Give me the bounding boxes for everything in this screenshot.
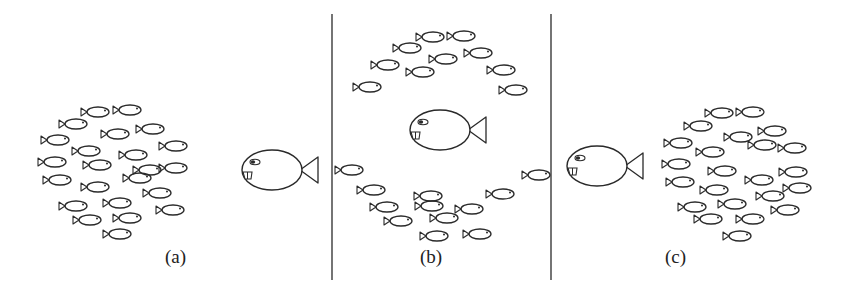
panel-label-c: (c) [665,246,686,268]
fish-school [662,107,811,241]
small-fish-icon [384,216,412,226]
small-fish-icon [463,229,491,239]
small-fish-icon [59,201,87,211]
small-fish-icon [156,205,184,215]
small-fish-icon [745,175,773,185]
small-fish-icon [159,163,187,173]
small-fish-icon [72,146,100,156]
small-fish-icon [113,213,141,223]
small-fish-icon [420,231,448,241]
small-fish-icon [41,135,69,145]
panel-label-a: (a) [165,246,186,268]
small-fish-icon [464,48,492,58]
small-fish-icon [393,43,421,53]
panel-label-b: (b) [420,246,442,268]
small-fish-icon [123,173,151,183]
predator-teeth [243,172,252,179]
small-fish-icon [81,107,109,117]
small-fish-icon [103,198,131,208]
small-fish-icon [696,147,724,157]
small-fish-icon [779,167,807,177]
small-fish-icon [136,124,164,134]
predator-fish-icon [242,150,318,190]
fish-school [38,105,187,239]
predator-fish-icon [410,110,486,150]
small-fish-icon [664,138,692,148]
small-fish-icon [723,231,751,241]
small-fish-icon [486,189,514,199]
small-fish-icon [694,214,722,224]
small-fish-icon [113,105,141,115]
small-fish-icon [718,199,746,209]
small-fish-icon [43,175,71,185]
small-fish-icon [447,31,475,41]
small-fish-icon [666,177,694,187]
small-fish-icon [353,82,381,92]
small-fish-icon [143,188,171,198]
small-fish-icon [414,191,442,201]
small-fish-icon [429,54,457,64]
small-fish-icon [73,215,101,225]
small-fish-icon [371,60,399,70]
small-fish-icon [684,121,712,131]
small-fish-icon [736,107,764,117]
small-fish-icon [756,191,784,201]
small-fish-icon [499,85,527,95]
small-fish-icon [416,32,444,42]
small-fish-icon [103,229,131,239]
panel-c [567,107,811,241]
small-fish-icon [662,159,690,169]
small-fish-icon [678,202,706,212]
small-fish-icon [522,170,550,180]
small-fish-icon [38,157,66,167]
small-fish-icon [771,205,799,215]
small-fish-icon [708,166,736,176]
small-fish-icon [415,201,443,211]
small-fish-icon [119,150,147,160]
small-fish-icon [83,160,111,170]
small-fish-icon [101,129,129,139]
predator-fish-icon [567,146,643,186]
small-fish-icon [430,213,458,223]
small-fish-icon [700,185,728,195]
small-fish-icon [487,65,515,75]
small-fish-icon [335,165,363,175]
small-fish-icon [778,143,806,153]
panel-a [38,105,318,239]
small-fish-icon [357,185,385,195]
small-fish-icon [59,119,87,129]
panel-b [335,31,550,241]
small-fish-icon [159,141,187,151]
small-fish-icon [748,140,776,150]
small-fish-icon [81,182,109,192]
small-fish-icon [736,214,764,224]
small-fish-icon [758,126,786,136]
predator-teeth [568,168,577,175]
small-fish-icon [455,204,483,214]
small-fish-icon [370,202,398,212]
small-fish-icon [705,108,733,118]
small-fish-icon [783,183,811,193]
predator-teeth [411,132,420,139]
small-fish-icon [406,67,434,77]
